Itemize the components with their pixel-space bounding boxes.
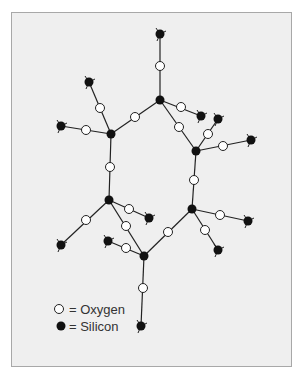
silicon-atom — [214, 115, 223, 124]
oxygen-atom — [131, 113, 140, 122]
oxygen-atom — [122, 244, 131, 253]
oxygen-atom — [106, 163, 115, 172]
oxygen-atom — [175, 123, 184, 132]
silicon-atom — [137, 322, 146, 331]
silicon-atom — [57, 122, 66, 131]
oxygen-legend-icon — [55, 305, 64, 314]
silicon-atom — [104, 237, 113, 246]
oxygen-atom — [219, 142, 228, 151]
silicon-atom — [214, 246, 223, 255]
silicon-legend-label: = Silicon — [69, 319, 119, 334]
silicon-atom — [197, 112, 206, 121]
silicon-atom — [247, 136, 256, 145]
silicon-atom — [188, 205, 197, 214]
dangling-bonds — [57, 28, 257, 333]
oxygen-atom — [216, 211, 225, 220]
oxygen-legend-label: = Oxygen — [69, 302, 125, 317]
silicon-atom — [85, 78, 94, 87]
silicon-atom — [107, 130, 116, 139]
oxygen-atom — [177, 103, 186, 112]
silicon-atom — [57, 241, 66, 250]
silicon-atom — [140, 252, 149, 261]
oxygen-atom — [156, 62, 165, 71]
oxygen-atom — [122, 222, 131, 231]
oxygen-atom — [201, 226, 210, 235]
oxygen-atom — [82, 126, 91, 135]
oxygen-atom — [125, 205, 134, 214]
silicon-atom — [192, 147, 201, 156]
silicate-diagram: = Oxygen = Silicon — [0, 0, 301, 374]
oxygen-atoms — [82, 62, 228, 293]
silicon-atom — [145, 214, 154, 223]
legend: = Oxygen = Silicon — [55, 302, 126, 334]
oxygen-atom — [164, 228, 173, 237]
oxygen-atom — [96, 104, 105, 113]
silicon-atom — [244, 217, 253, 226]
oxygen-atom — [82, 216, 91, 225]
silicon-atom — [156, 96, 165, 105]
silicon-atoms — [57, 30, 256, 331]
oxygen-atom — [204, 130, 213, 139]
silicon-atom — [156, 30, 165, 39]
oxygen-atom — [190, 176, 199, 185]
silicon-legend-icon — [57, 322, 66, 331]
oxygen-atom — [139, 284, 148, 293]
silicon-atom — [105, 196, 114, 205]
